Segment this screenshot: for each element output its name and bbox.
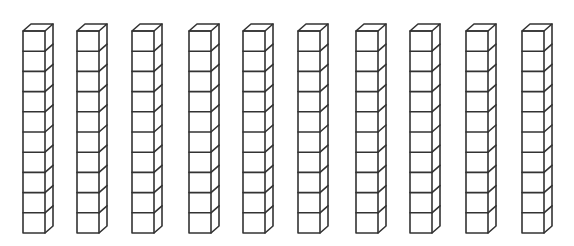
rod-top-face bbox=[356, 24, 386, 31]
unit-cube-side-divider bbox=[211, 105, 219, 112]
unit-cube-side-divider bbox=[211, 206, 219, 213]
unit-cube-side-divider bbox=[378, 105, 386, 112]
unit-cube-side-divider bbox=[265, 186, 273, 193]
unit-cube-side-divider bbox=[45, 64, 53, 71]
unit-cube-side-divider bbox=[544, 145, 552, 152]
unit-cube-side-divider bbox=[99, 85, 107, 92]
unit-cube-side-divider bbox=[544, 44, 552, 51]
ten-rod bbox=[298, 24, 328, 233]
unit-cube-side-divider bbox=[488, 105, 496, 112]
unit-cube-side-divider bbox=[432, 44, 440, 51]
unit-cube-side-divider bbox=[211, 44, 219, 51]
unit-cube-side-divider bbox=[45, 105, 53, 112]
unit-cube-side-divider bbox=[320, 64, 328, 71]
unit-cube-side-divider bbox=[488, 44, 496, 51]
base-ten-rods-diagram bbox=[0, 0, 574, 246]
rod-top-face bbox=[77, 24, 107, 31]
rod-top-face bbox=[522, 24, 552, 31]
rod-top-face bbox=[466, 24, 496, 31]
unit-cube-side-divider bbox=[320, 85, 328, 92]
unit-cube-side-divider bbox=[211, 165, 219, 172]
unit-cube-side-divider bbox=[544, 105, 552, 112]
unit-cube-side-divider bbox=[378, 125, 386, 132]
unit-cube-side-divider bbox=[378, 206, 386, 213]
unit-cube-side-divider bbox=[154, 125, 162, 132]
unit-cube-side-divider bbox=[45, 125, 53, 132]
unit-cube-side-divider bbox=[432, 125, 440, 132]
unit-cube-side-divider bbox=[45, 186, 53, 193]
unit-cube-side-divider bbox=[432, 186, 440, 193]
unit-cube-side-divider bbox=[544, 206, 552, 213]
unit-cube-side-divider bbox=[265, 64, 273, 71]
unit-cube-side-divider bbox=[544, 165, 552, 172]
unit-cube-side-divider bbox=[99, 105, 107, 112]
unit-cube-side-divider bbox=[320, 105, 328, 112]
unit-cube-side-divider bbox=[154, 85, 162, 92]
unit-cube-side-divider bbox=[320, 186, 328, 193]
ten-rod bbox=[132, 24, 162, 233]
unit-cube-side-divider bbox=[265, 206, 273, 213]
unit-cube-side-divider bbox=[99, 64, 107, 71]
unit-cube-side-divider bbox=[99, 145, 107, 152]
unit-cube-side-divider bbox=[265, 125, 273, 132]
unit-cube-side-divider bbox=[211, 186, 219, 193]
unit-cube-side-divider bbox=[265, 145, 273, 152]
unit-cube-side-divider bbox=[378, 64, 386, 71]
unit-cube-side-divider bbox=[488, 145, 496, 152]
unit-cube-side-divider bbox=[544, 125, 552, 132]
unit-cube-side-divider bbox=[544, 64, 552, 71]
unit-cube-side-divider bbox=[265, 105, 273, 112]
unit-cube-side-divider bbox=[265, 44, 273, 51]
unit-cube-side-divider bbox=[378, 186, 386, 193]
ten-rod bbox=[356, 24, 386, 233]
unit-cube-side-divider bbox=[432, 206, 440, 213]
unit-cube-side-divider bbox=[265, 165, 273, 172]
unit-cube-side-divider bbox=[99, 186, 107, 193]
unit-cube-side-divider bbox=[488, 85, 496, 92]
unit-cube-side-divider bbox=[154, 206, 162, 213]
unit-cube-side-divider bbox=[99, 44, 107, 51]
unit-cube-side-divider bbox=[320, 206, 328, 213]
rod-top-face bbox=[189, 24, 219, 31]
unit-cube-side-divider bbox=[99, 125, 107, 132]
unit-cube-side-divider bbox=[154, 105, 162, 112]
unit-cube-side-divider bbox=[544, 85, 552, 92]
unit-cube-side-divider bbox=[432, 64, 440, 71]
unit-cube-side-divider bbox=[154, 44, 162, 51]
unit-cube-side-divider bbox=[154, 145, 162, 152]
unit-cube-side-divider bbox=[320, 125, 328, 132]
rod-top-face bbox=[298, 24, 328, 31]
unit-cube-side-divider bbox=[154, 186, 162, 193]
unit-cube-side-divider bbox=[45, 44, 53, 51]
rod-top-face bbox=[132, 24, 162, 31]
unit-cube-side-divider bbox=[378, 165, 386, 172]
unit-cube-side-divider bbox=[432, 145, 440, 152]
unit-cube-side-divider bbox=[45, 165, 53, 172]
ten-rod bbox=[189, 24, 219, 233]
unit-cube-side-divider bbox=[45, 145, 53, 152]
unit-cube-side-divider bbox=[211, 64, 219, 71]
ten-rod bbox=[410, 24, 440, 233]
unit-cube-side-divider bbox=[488, 125, 496, 132]
rod-top-face bbox=[410, 24, 440, 31]
unit-cube-side-divider bbox=[99, 206, 107, 213]
unit-cube-side-divider bbox=[488, 186, 496, 193]
unit-cube-side-divider bbox=[488, 165, 496, 172]
unit-cube-side-divider bbox=[320, 145, 328, 152]
unit-cube-side-divider bbox=[544, 186, 552, 193]
unit-cube-side-divider bbox=[45, 206, 53, 213]
unit-cube-side-divider bbox=[211, 85, 219, 92]
ten-rod bbox=[77, 24, 107, 233]
unit-cube-side-divider bbox=[45, 85, 53, 92]
unit-cube-side-divider bbox=[265, 85, 273, 92]
unit-cube-side-divider bbox=[432, 105, 440, 112]
unit-cube-side-divider bbox=[488, 206, 496, 213]
unit-cube-side-divider bbox=[378, 85, 386, 92]
ten-rod bbox=[466, 24, 496, 233]
ten-rod bbox=[522, 24, 552, 233]
unit-cube-side-divider bbox=[154, 165, 162, 172]
unit-cube-side-divider bbox=[432, 165, 440, 172]
unit-cube-side-divider bbox=[154, 64, 162, 71]
unit-cube-side-divider bbox=[211, 125, 219, 132]
unit-cube-side-divider bbox=[99, 165, 107, 172]
